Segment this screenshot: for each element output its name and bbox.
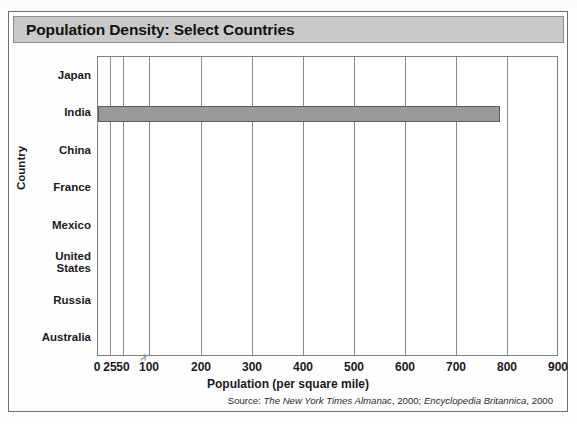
plot-area xyxy=(97,56,558,356)
source-note: Source: The New York Times Almanac, 2000… xyxy=(228,395,553,406)
gridline-600 xyxy=(405,57,406,355)
x-axis-tick-25: 25 xyxy=(103,360,116,374)
source-publication-2: Encyclopedia Britannica xyxy=(424,395,526,406)
y-axis-label-australia: Australia xyxy=(17,331,91,344)
x-axis-tick-0: 0 xyxy=(94,360,101,374)
gridline-300 xyxy=(252,57,253,355)
x-axis-tick-600: 600 xyxy=(395,360,415,374)
gridline-500 xyxy=(354,57,355,355)
gridline-200 xyxy=(201,57,202,355)
gridline-25 xyxy=(110,57,111,355)
x-axis-tick-800: 800 xyxy=(497,360,517,374)
y-axis-label-china: China xyxy=(17,144,91,157)
x-axis-tick-700: 700 xyxy=(446,360,466,374)
x-axis-tick-400: 400 xyxy=(293,360,313,374)
chart-figure: Population Density: Select Countries Cou… xyxy=(8,11,568,412)
x-axis-title: Population (per square mile) xyxy=(9,377,567,391)
y-axis-label-japan: Japan xyxy=(17,69,91,82)
chart-title-bar: Population Density: Select Countries xyxy=(13,16,564,43)
x-axis-tick-50: 50 xyxy=(116,360,129,374)
gridline-700 xyxy=(456,57,457,355)
scan-edge xyxy=(0,0,577,9)
source-publication-1: The New York Times Almanac xyxy=(263,395,391,406)
y-axis-labels: JapanIndiaChinaFranceMexicoUnited States… xyxy=(9,56,91,356)
x-axis-tick-500: 500 xyxy=(344,360,364,374)
gridline-400 xyxy=(303,57,304,355)
gridline-50 xyxy=(123,57,124,355)
source-year: , 2000 xyxy=(526,395,553,406)
x-axis-tick-200: 200 xyxy=(191,360,211,374)
x-axis-tick-100: 100 xyxy=(139,360,159,374)
source-separator: , 2000; xyxy=(392,395,424,406)
gridline-800 xyxy=(507,57,508,355)
x-axis-tick-900: 900 xyxy=(548,360,568,374)
bar-india[interactable] xyxy=(98,106,500,122)
x-axis-tick-300: 300 xyxy=(242,360,262,374)
y-axis-label-mexico: Mexico xyxy=(17,219,91,232)
y-axis-label-india: India xyxy=(17,106,91,119)
y-axis-label-russia: Russia xyxy=(17,294,91,307)
page-title: Population Density: Select Countries xyxy=(26,21,295,39)
gridline-100 xyxy=(149,57,150,355)
y-axis-label-france: France xyxy=(17,181,91,194)
y-axis-label-united-states: United States xyxy=(17,250,91,275)
source-prefix: Source: xyxy=(228,395,264,406)
